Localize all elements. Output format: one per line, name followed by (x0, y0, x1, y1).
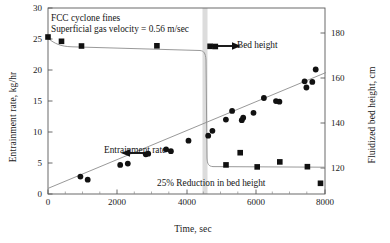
y-axis-right-ticks (321, 33, 326, 168)
y-right-tick-160: 160 (331, 73, 355, 83)
y-left-tick-30: 30 (20, 3, 42, 13)
entrainment-trend-line (48, 73, 326, 189)
y-left-tick-15: 15 (20, 96, 42, 106)
y-right-tick-120: 120 (331, 163, 355, 173)
x-axis-title: Time, sec (148, 224, 238, 234)
annotation-bed-height-reduction: 25% Reduction in bed height (157, 178, 265, 188)
y-right-tick-140: 140 (331, 118, 355, 128)
y-axis-left-title: Entrainment rate, kg/hr (8, 57, 18, 177)
x-tick-6000: 6000 (236, 197, 276, 207)
y-left-tick-20: 20 (20, 65, 42, 75)
annotation-bed-height: Bed height (237, 40, 278, 50)
annotation-material: FCC cyclone fines (51, 13, 120, 23)
x-tick-8000: 8000 (305, 197, 345, 207)
bed-height-trend-line (48, 39, 325, 168)
y-axis-right-title: Fluidized bed height, cm (367, 53, 377, 177)
y-left-tick-10: 10 (20, 127, 42, 137)
chart-figure: 0 5 10 15 20 25 30 180 160 140 120 0 200… (0, 0, 390, 243)
bed-height-points (45, 34, 323, 186)
entrainment-rate-points (78, 67, 319, 183)
x-tick-0: 0 (28, 197, 68, 207)
x-tick-2000: 2000 (97, 197, 137, 207)
annotation-entrainment-rate: Entrainment rate (104, 145, 166, 155)
annotation-gas-velocity: Superficial gas velocity = 0.56 m/sec (51, 24, 189, 34)
plot-frame (48, 8, 325, 194)
x-tick-4000: 4000 (167, 197, 207, 207)
y-left-tick-5: 5 (20, 158, 42, 168)
x-axis-major-ticks (48, 190, 325, 195)
y-right-tick-180: 180 (331, 28, 355, 38)
y-left-tick-25: 25 (20, 34, 42, 44)
